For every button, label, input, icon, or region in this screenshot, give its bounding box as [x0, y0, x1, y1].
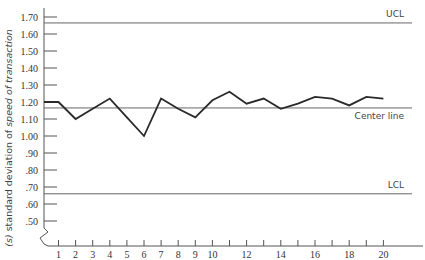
x-tick-label: 14 — [276, 249, 286, 260]
y-tick-label: 1.70 — [21, 12, 39, 23]
y-axis: 1.701.601.501.401.301.201.101.00.90.80.7… — [21, 8, 58, 246]
x-tick-label: 18 — [344, 249, 354, 260]
ucl-label: UCL — [386, 9, 404, 19]
y-axis-title-prefix: (s) — [3, 234, 14, 246]
y-axis-title-middle: standard deviation of — [3, 127, 14, 235]
x-tick-label: 9 — [193, 249, 198, 260]
x-tick-label: 5 — [124, 249, 129, 260]
y-tick-label: .60 — [26, 199, 39, 210]
y-tick-label: .70 — [26, 182, 39, 193]
x-tick-label: 12 — [242, 249, 252, 260]
y-tick-label: 1.40 — [21, 63, 39, 74]
data-series — [44, 92, 383, 136]
y-tick-label: .80 — [26, 165, 39, 176]
x-tick-label: 8 — [176, 249, 181, 260]
x-tick-label: 2 — [73, 249, 78, 260]
x-tick-label: 4 — [107, 249, 112, 260]
y-axis-title: (s) standard deviation of speed of trans… — [3, 29, 14, 246]
x-tick-label: 10 — [207, 249, 217, 260]
y-tick-label: 1.30 — [21, 80, 39, 91]
y-tick-label: 1.20 — [21, 97, 39, 108]
x-tick-label: 16 — [310, 249, 320, 260]
y-tick-label: .90 — [26, 148, 39, 159]
y-tick-label: 1.60 — [21, 29, 39, 40]
y-tick-label: 1.50 — [21, 46, 39, 57]
x-tick-label: 1 — [56, 249, 61, 260]
control-chart: 1.701.601.501.401.301.201.101.00.90.80.7… — [0, 0, 425, 260]
x-axis: 123456789101214161820 — [48, 240, 423, 260]
x-tick-label: 20 — [378, 249, 388, 260]
x-tick-label: 7 — [159, 249, 164, 260]
y-tick-label: .50 — [26, 216, 39, 227]
lcl-label: LCL — [388, 180, 404, 190]
series-line — [44, 92, 383, 136]
x-tick-label: 3 — [90, 249, 95, 260]
x-tick-label: 6 — [142, 249, 147, 260]
y-tick-label: 1.00 — [21, 131, 39, 142]
y-tick-label: 1.10 — [21, 114, 39, 125]
center-line-label: Center line — [355, 111, 405, 121]
axis-break-icon — [40, 228, 48, 246]
y-axis-title-suffix: speed of transaction — [3, 29, 14, 127]
